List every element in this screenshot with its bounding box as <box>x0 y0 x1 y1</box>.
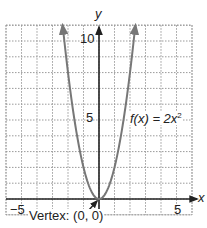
function-label-text: f(x) = 2x <box>130 111 177 126</box>
x-axis-label: x <box>198 191 205 204</box>
function-label: f(x) = 2x2 <box>129 112 183 125</box>
y-tick-label-5: 5 <box>86 111 93 124</box>
vertex-label: Vertex: (0, 0) <box>28 209 104 222</box>
x-tick-label-neg5: −5 <box>10 203 25 216</box>
y-axis-label: y <box>95 7 102 20</box>
x-tick-label-5: 5 <box>174 203 181 216</box>
function-label-exponent: 2 <box>177 111 181 120</box>
y-tick-label-10: 10 <box>80 32 94 45</box>
